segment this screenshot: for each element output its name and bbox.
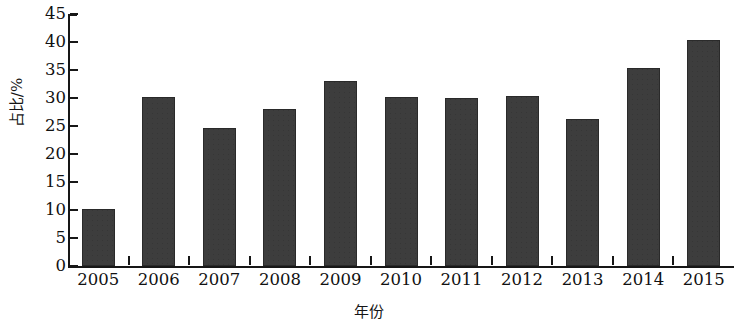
x-axis-tick-mark [370, 256, 372, 265]
y-axis-tick-label: 25 [22, 118, 66, 135]
x-axis-tick-mark [249, 256, 251, 265]
x-axis-line [68, 266, 734, 268]
x-axis-tick-mark [430, 256, 432, 265]
y-axis-tick-label: 30 [22, 90, 66, 107]
bar [506, 96, 539, 266]
y-axis-tick-mark [70, 125, 78, 127]
y-axis-tick-labels: 454035302520151050 [0, 0, 66, 329]
bar [445, 98, 478, 266]
y-axis-tick-label: 45 [22, 6, 66, 23]
y-axis-tick-mark [70, 209, 78, 211]
y-axis-tick-label: 5 [22, 230, 66, 247]
x-axis-tick-mark [672, 256, 674, 265]
bar [142, 97, 175, 266]
bar [687, 40, 720, 266]
x-axis-tick-mark [309, 256, 311, 265]
y-axis-line [68, 14, 70, 268]
bar [263, 109, 296, 266]
y-axis-tick-mark [70, 97, 78, 99]
y-axis-tick-label: 20 [22, 146, 66, 163]
bar [627, 68, 660, 266]
x-axis-tick-mark [551, 256, 553, 265]
x-axis-tick-mark [188, 256, 190, 265]
y-axis-tick-mark [70, 265, 78, 267]
bar [566, 119, 599, 266]
y-axis-tick-label: 35 [22, 62, 66, 79]
y-axis-tick-mark [70, 181, 78, 183]
y-axis-tick-label: 15 [22, 174, 66, 191]
bar [385, 97, 418, 266]
bar-chart: 占比/% 454035302520151050 2005200620072008… [0, 0, 737, 329]
y-axis-tick-label: 40 [22, 34, 66, 51]
bar [82, 209, 115, 266]
x-axis-tick-label: 2015 [664, 272, 737, 289]
x-axis-tick-mark [612, 256, 614, 265]
y-axis-tick-label: 10 [22, 202, 66, 219]
x-axis-tick-mark [128, 256, 130, 265]
y-axis-tick-mark [70, 13, 78, 15]
y-axis-tick-mark [70, 41, 78, 43]
y-axis-tick-mark [70, 69, 78, 71]
y-axis-tick-mark [70, 153, 78, 155]
plot-area [68, 14, 734, 267]
bar [324, 81, 357, 266]
y-axis-tick-mark [70, 237, 78, 239]
x-axis-title: 年份 [0, 300, 737, 321]
bar [203, 128, 236, 266]
x-axis-tick-mark [491, 256, 493, 265]
